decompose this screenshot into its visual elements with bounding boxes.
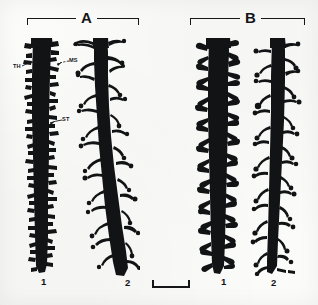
dendrite-a1 <box>18 36 66 276</box>
specimen-label-a2: 2 <box>125 278 130 288</box>
dendrite-b2 <box>246 36 308 276</box>
panel-label-a: A <box>76 10 97 25</box>
specimen-label-a1: 1 <box>41 277 46 287</box>
leader-line-th <box>20 58 42 72</box>
leader-line-ms <box>55 57 71 69</box>
specimen-label-b1: 1 <box>221 277 226 287</box>
dendrite-a2 <box>68 36 140 278</box>
specimen-label-b2: 2 <box>271 278 276 288</box>
leader-line-st <box>48 116 64 128</box>
dendrite-b1 <box>192 36 246 276</box>
panel-label-b: B <box>240 10 261 25</box>
figure-plate: A <box>0 0 318 305</box>
scale-bar <box>152 280 190 288</box>
